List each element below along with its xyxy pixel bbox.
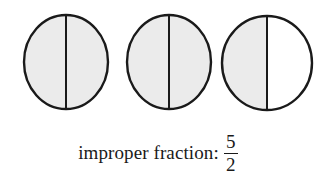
circle-2-left-half-shaded: [127, 15, 169, 109]
circle-model-1: [19, 10, 113, 114]
circle-3-left-half-shaded: [222, 16, 267, 110]
fraction-five-halves: 5 2: [224, 132, 238, 174]
improper-fraction-figure: improper fraction: 5 2: [0, 0, 316, 176]
circle-models-row: [0, 0, 316, 126]
circle-1-right-half-shaded: [66, 15, 108, 109]
circle-model-3: [222, 10, 316, 114]
circle-1-left-half-shaded: [24, 15, 66, 109]
fraction-numerator: 5: [225, 132, 237, 151]
caption: improper fraction: 5 2: [0, 129, 316, 176]
caption-label: improper fraction:: [78, 143, 219, 162]
circle-model-2: [122, 10, 216, 114]
circle-3-right-half-unshaded: [267, 16, 312, 110]
fraction-denominator: 2: [225, 155, 237, 174]
circle-2-right-half-shaded: [169, 15, 211, 109]
